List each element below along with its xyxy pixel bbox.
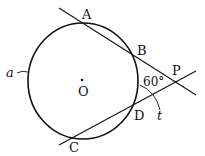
arc-a-leader: [17, 71, 28, 73]
label-o-center: O: [78, 84, 89, 99]
label-d-point: D: [134, 108, 144, 123]
label-b-point: B: [137, 43, 147, 58]
circle: [28, 23, 138, 139]
label-arc-a: a: [6, 65, 14, 80]
label-a-point: A: [81, 7, 92, 22]
center-point-o: [81, 79, 84, 82]
label-angle-60: 60°: [143, 75, 164, 89]
label-p-point: P: [172, 63, 181, 78]
geometry-diagram: A B P D C O 60° a t: [0, 0, 205, 156]
label-arc-t: t: [157, 108, 163, 123]
label-c-point: C: [69, 140, 79, 155]
diagram-svg: A B P D C O 60° a t: [0, 0, 205, 156]
secant-line-cd: [59, 71, 196, 145]
